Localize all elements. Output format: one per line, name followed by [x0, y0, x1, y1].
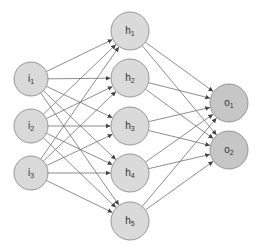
edge-i1-h1	[46, 40, 112, 72]
hidden-layer: h1h2h3h4h5	[111, 12, 149, 240]
output-node-o1: o1	[210, 84, 248, 122]
edge-i1-h2	[48, 78, 111, 79]
neural-network-diagram: i1i2i3h1h2h3h4h5o1o2	[0, 0, 258, 248]
hidden-node-h2: h2	[111, 59, 149, 97]
edge-i3-h1	[41, 47, 119, 159]
hidden-node-h5: h5	[111, 202, 149, 240]
hidden-node-h3: h3	[111, 107, 149, 145]
edge-h5-o1	[142, 118, 216, 207]
edge-h4-o1	[146, 114, 214, 162]
input-layer: i1i2i3	[14, 62, 48, 190]
input-node-i2: i2	[14, 109, 48, 143]
output-layer: o1o2	[210, 84, 248, 169]
edge-h4-o2	[149, 154, 211, 168]
output-node-o2: o2	[210, 131, 248, 169]
network-canvas: i1i2i3h1h2h3h4h5o1o2	[0, 0, 258, 248]
input-node-i3: i3	[14, 156, 48, 190]
input-node-i1: i1	[14, 62, 48, 96]
edge-h5-o2	[145, 161, 213, 210]
hidden-node-h1: h1	[111, 12, 149, 50]
hidden-node-h4: h4	[111, 154, 149, 192]
edge-h2-o1	[148, 83, 210, 99]
edge-h3-o1	[149, 107, 211, 121]
edge-i3-h5	[46, 180, 112, 212]
